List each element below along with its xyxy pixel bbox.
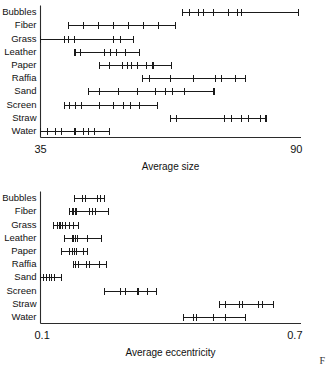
range-row [74,195,104,202]
range-row [183,9,299,16]
range-row [184,314,246,321]
category-label: Paper [11,245,36,256]
category-label: Screen [6,285,36,296]
category-label: Leather [4,46,36,57]
range-row [105,288,157,295]
category-label: Fiber [15,205,37,216]
category-label: Straw [12,112,36,123]
range-row [88,88,214,95]
category-label: Bubbles [2,192,37,203]
average-size-plot: BubblesFiberGrassLeatherPaperRaffiaSandS… [0,0,326,186]
category-label: Screen [6,99,36,110]
range-row [75,49,139,56]
category-label: Water [12,125,37,136]
category-label: Raffia [12,258,37,269]
average-eccentricity-chart-panel: BubblesFiberGrassLeatherPaperRaffiaSandS… [0,186,326,372]
category-label: Bubbles [2,6,37,17]
x-axis-min-label: 0.1 [35,329,50,341]
range-row [142,75,245,82]
category-label: Water [12,311,37,322]
x-axis-max-label: 90 [290,143,302,155]
figure-corner-mark: F [319,355,325,366]
range-row [54,222,78,229]
range-row [171,115,266,122]
range-row [64,102,157,109]
x-axis-title: Average eccentricity [126,347,216,358]
x-axis-max-label: 0.7 [287,329,302,341]
range-row [41,36,134,43]
category-label: Leather [4,232,36,243]
category-label: Sand [14,85,36,96]
range-row [41,128,110,135]
range-row [41,274,62,281]
range-row [64,235,101,242]
average-size-chart-panel: BubblesFiberGrassLeatherPaperRaffiaSandS… [0,0,326,186]
range-row [73,261,106,268]
range-row [69,208,108,215]
category-label: Raffia [12,72,37,83]
category-label: Straw [12,298,36,309]
range-row [219,301,273,308]
x-axis-title: Average size [142,161,200,172]
range-row [100,62,172,69]
average-eccentricity-plot: BubblesFiberGrassLeatherPaperRaffiaSandS… [0,186,326,372]
range-row [62,248,88,255]
range-row [68,22,175,29]
category-label: Paper [11,59,36,70]
category-label: Grass [11,219,37,230]
x-axis-min-label: 35 [35,143,47,155]
category-label: Sand [14,271,36,282]
category-label: Fiber [15,19,37,30]
category-label: Grass [11,33,37,44]
